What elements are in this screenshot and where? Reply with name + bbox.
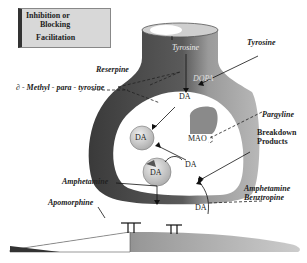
mao-label: MAO	[188, 134, 207, 143]
products-label: Products	[257, 137, 288, 146]
amphetamine-left-label: Amphetamine	[62, 177, 108, 186]
legend-box: Inhibition or Blocking Facilitation	[18, 8, 111, 48]
legend-blocking-label: Blocking	[40, 21, 70, 29]
apomorphine-label: Apomorphine	[48, 198, 93, 207]
reserpine-label: Reserpine	[96, 65, 129, 74]
da-bottom-label: DA	[195, 203, 207, 212]
tyrosine-external-label: Tyrosine	[247, 38, 276, 47]
dopa-label: DOPA	[193, 74, 213, 83]
methyl-para-tyrosine-label: ∂ - Methyl - para - tyrosine	[16, 83, 104, 92]
da-vesicle-1-label: DA	[135, 133, 147, 142]
pargyline-label: Pargyline	[262, 110, 294, 119]
benztropine-label: Benztropine	[244, 193, 284, 202]
legend-facilitation-label: Facilitation	[36, 34, 75, 42]
da-middle-label: DA	[185, 160, 197, 169]
da-vesicle-2-label: DA	[150, 168, 162, 177]
tyrosine-inside-label: Tyrosine	[172, 43, 199, 52]
da-top-label: DA	[179, 92, 191, 101]
mao-mitochondrion	[190, 106, 218, 134]
legend-inhibition-label: Inhibition or	[26, 12, 70, 20]
breakdown-label: Breakdown	[257, 128, 296, 137]
amphetamine-right-label: Amphetamine	[244, 184, 290, 193]
